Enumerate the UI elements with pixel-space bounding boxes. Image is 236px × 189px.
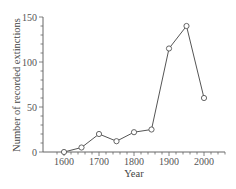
y-tick-label: 100 — [22, 57, 37, 68]
x-tick-label: 1900 — [159, 156, 179, 167]
y-axis: 050100150 — [22, 12, 43, 158]
data-point-marker — [149, 127, 154, 132]
y-tick-label: 0 — [32, 147, 37, 158]
data-point-marker — [131, 130, 136, 135]
data-point-marker — [96, 131, 101, 136]
data-point-marker — [166, 46, 171, 51]
x-tick-label: 1600 — [54, 156, 74, 167]
x-tick-label: 1700 — [89, 156, 109, 167]
x-axis: 16001700180019002000 — [43, 152, 225, 167]
data-series — [61, 23, 206, 154]
extinctions-line-chart: 050100150 16001700180019002000 Year Numb… — [0, 0, 236, 189]
y-tick-label: 50 — [27, 102, 37, 113]
data-point-marker — [201, 95, 206, 100]
x-tick-label: 2000 — [194, 156, 214, 167]
y-tick-label: 150 — [22, 12, 37, 23]
data-point-marker — [184, 23, 189, 28]
data-point-marker — [61, 149, 66, 154]
x-tick-label: 1800 — [124, 156, 144, 167]
data-point-marker — [114, 139, 119, 144]
x-axis-title: Year — [124, 168, 144, 179]
data-point-marker — [79, 145, 84, 150]
y-axis-title: Number of recorded extinctions — [11, 18, 22, 152]
